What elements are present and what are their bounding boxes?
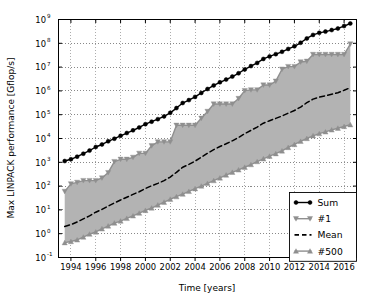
x-tick-label: 2004	[184, 262, 205, 272]
svg-text:10: 10	[35, 39, 46, 49]
x-tick-label: 2008	[234, 262, 255, 272]
svg-text:4: 4	[47, 132, 51, 138]
y-axis-title: Max LINPACK performance [Gflop/s]	[6, 58, 16, 219]
x-tick-label: 2014	[309, 262, 330, 272]
svg-text:10: 10	[35, 253, 46, 263]
legend-label-1: #1	[318, 213, 332, 224]
x-tick-label: 2002	[160, 262, 181, 272]
x-tick-label: 2000	[135, 262, 156, 272]
legend-label-sum: Sum	[318, 197, 339, 208]
svg-text:6: 6	[47, 85, 51, 91]
svg-text:3: 3	[47, 156, 51, 162]
svg-text:10: 10	[35, 229, 46, 239]
svg-text:9: 9	[47, 13, 51, 19]
chart-legend[interactable]: Sum#1Mean#500	[290, 193, 357, 262]
svg-text:10: 10	[35, 181, 46, 191]
svg-text:10: 10	[35, 62, 46, 72]
x-tick-label: 2010	[259, 262, 280, 272]
performance-development-chart: 1994199619982000200220042006200820102012…	[0, 0, 378, 300]
svg-text:-1: -1	[47, 251, 53, 257]
svg-text:1: 1	[47, 204, 51, 210]
x-tick-label: 2012	[284, 262, 305, 272]
svg-text:5: 5	[47, 109, 51, 115]
x-tick-label: 2016	[333, 262, 354, 272]
svg-text:10: 10	[35, 110, 46, 120]
svg-text:2: 2	[47, 180, 51, 186]
svg-text:8: 8	[47, 37, 51, 43]
x-tick-label: 1996	[85, 262, 106, 272]
x-tick-label: 2006	[209, 262, 230, 272]
x-tick-label: 1998	[110, 262, 131, 272]
x-axis-title: Time [years]	[178, 283, 236, 293]
svg-text:10: 10	[35, 86, 46, 96]
svg-text:10: 10	[35, 134, 46, 144]
svg-text:7: 7	[47, 61, 51, 67]
svg-text:10: 10	[35, 158, 46, 168]
legend-label-mean: Mean	[318, 229, 343, 240]
svg-text:10: 10	[35, 205, 46, 215]
svg-text:0: 0	[47, 228, 51, 234]
x-tick-label: 1994	[60, 262, 81, 272]
chart-figure: 1994199619982000200220042006200820102012…	[0, 0, 378, 300]
svg-text:10: 10	[35, 15, 46, 25]
legend-label-500: #500	[318, 246, 343, 257]
